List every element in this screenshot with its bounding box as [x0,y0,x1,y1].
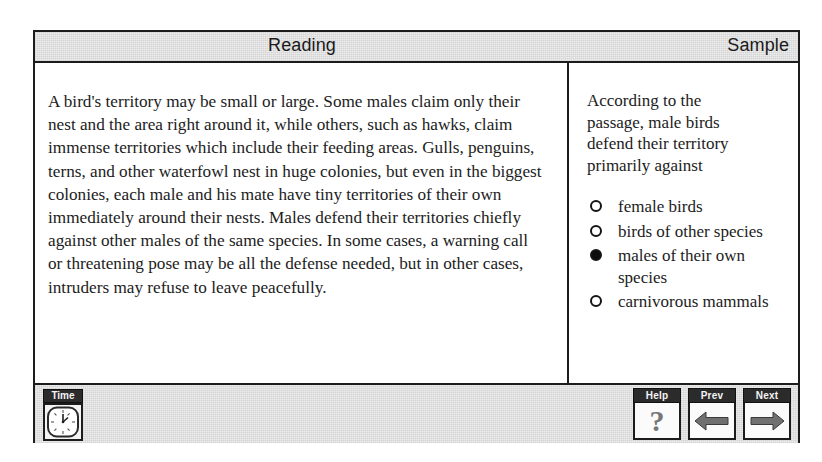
page-title: Reading [35,35,569,56]
navigation-buttons: Help ? Prev Next [633,388,791,440]
time-label: Time [43,389,83,403]
help-button[interactable]: Help ? [633,388,681,440]
answer-option-label: males of their own species [618,245,792,288]
title-bar: Reading Sample [35,32,798,63]
toolbar: Time [35,383,798,443]
passage-text: A bird's territory may be small or large… [48,90,545,299]
clock-face-icon [45,405,81,439]
help-button-label: Help [633,388,681,403]
answer-option-2[interactable]: birds of other species [587,221,792,243]
radio-button-icon[interactable] [590,295,602,307]
section-label: Sample [727,35,789,56]
arrow-left-icon [693,409,731,433]
time-widget[interactable]: Time [43,389,83,441]
next-button-face[interactable] [743,403,791,440]
next-button[interactable]: Next [743,388,791,440]
answer-option-1[interactable]: female birds [587,196,792,218]
help-button-face[interactable]: ? [633,403,681,440]
passage-pane: A bird's territory may be small or large… [35,63,569,383]
radio-button-icon[interactable] [590,225,602,237]
prev-button-face[interactable] [688,403,736,440]
radio-button-icon[interactable] [590,200,602,212]
answer-option-4[interactable]: carnivorous mammals [587,291,792,313]
answer-option-label: female birds [618,196,792,218]
radio-button-selected-icon[interactable] [590,249,602,261]
clock-icon[interactable] [43,403,83,441]
answer-options: female birds birds of other species male… [587,196,792,316]
content-area: A bird's territory may be small or large… [35,63,798,383]
answer-option-label: birds of other species [618,221,792,243]
answer-option-3[interactable]: males of their own species [587,245,792,288]
prev-button[interactable]: Prev [688,388,736,440]
question-pane: According to the passage, male birds def… [571,63,800,383]
question-stem: According to the passage, male birds def… [587,90,747,176]
reading-test-window: Reading Sample A bird's territory may be… [33,30,800,443]
next-button-label: Next [743,388,791,403]
answer-option-label: carnivorous mammals [618,291,792,313]
arrow-right-icon [748,409,786,433]
question-mark-icon: ? [650,406,665,436]
prev-button-label: Prev [688,388,736,403]
